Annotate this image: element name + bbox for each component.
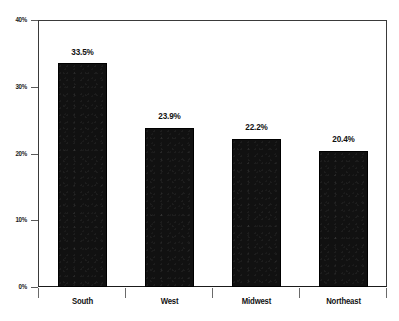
y-axis-label-40: 40% [2, 16, 27, 24]
value-label-midwest: 22.2% [235, 121, 277, 132]
y-axis-label-0: 0% [2, 283, 27, 291]
bar-midwest[interactable] [232, 139, 281, 287]
bar-chart: 40% 30% 20% 10% 0% 33.5% 23.9% 22.2% 20.… [0, 0, 399, 321]
x-tick-mark-1 [125, 288, 126, 298]
y-tick-mark-30 [31, 87, 38, 88]
x-axis-label-south: South [61, 296, 103, 307]
y-tick-mark-40 [31, 20, 38, 21]
x-axis-label-northeast: Northeast [320, 296, 367, 307]
value-label-south: 33.5% [61, 46, 103, 57]
y-tick-mark-0 [31, 287, 38, 288]
value-label-west: 23.9% [148, 110, 190, 121]
y-tick-mark-10 [31, 220, 38, 221]
x-tick-mark-0 [38, 288, 39, 298]
bar-west[interactable] [145, 128, 194, 288]
bar-south[interactable] [58, 63, 107, 287]
x-tick-mark-4 [386, 288, 387, 298]
x-axis-label-midwest: Midwest [234, 296, 280, 307]
x-tick-mark-2 [212, 288, 213, 298]
y-axis-label-20: 20% [2, 150, 27, 158]
bar-northeast[interactable] [319, 151, 368, 287]
x-axis-label-west: West [148, 296, 190, 307]
value-label-northeast: 20.4% [322, 133, 364, 144]
y-axis-label-10: 10% [2, 216, 27, 224]
y-axis-label-30: 30% [2, 83, 27, 91]
y-tick-mark-20 [31, 154, 38, 155]
x-tick-mark-3 [299, 288, 300, 298]
